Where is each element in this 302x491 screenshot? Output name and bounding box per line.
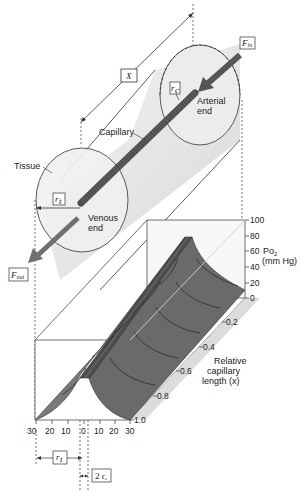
venous-end-label-2: end — [88, 223, 103, 233]
svg-text:20: 20 — [109, 426, 119, 436]
svg-text:40: 40 — [250, 262, 260, 272]
svg-text:10: 10 — [61, 426, 71, 436]
svg-text:100: 100 — [250, 215, 264, 225]
svg-text:0: 0 — [81, 426, 86, 436]
capillary-label: Capillary — [99, 127, 135, 137]
svg-text:0: 0 — [250, 293, 255, 303]
krogh-cylinder-diagram: X Fin Fout r c Arterial end Capillary Ti… — [0, 0, 302, 491]
svg-text:0.4: 0.4 — [203, 342, 215, 352]
svg-text:0.2: 0.2 — [226, 317, 238, 327]
po2-units: (mm Hg) — [262, 256, 297, 266]
arterial-end-label-2: end — [197, 106, 212, 116]
length-axis-title-1: Relative — [214, 356, 247, 366]
svg-text:c: c — [175, 85, 179, 95]
po2-axis: 100 80 60 40 20 0 Po2 (mm Hg) — [245, 215, 297, 303]
tissue-label: Tissue — [14, 161, 40, 171]
length-axis-title-2: capillary — [207, 366, 241, 376]
2rc-dimension: 2 rc — [80, 469, 111, 482]
svg-text:0.8: 0.8 — [157, 391, 169, 401]
svg-text:1.0: 1.0 — [134, 415, 146, 425]
length-axis-title-3: length (x) — [202, 376, 240, 386]
rt-bottom-dimension: r t — [37, 451, 82, 464]
radial-axis: 30 20 10 0 10 20 30 — [27, 420, 135, 436]
svg-text:20: 20 — [250, 278, 260, 288]
x-length-label: X — [125, 71, 132, 81]
svg-text:80: 80 — [250, 231, 260, 241]
svg-text:10: 10 — [94, 426, 104, 436]
venous-end-label-1: Venous — [88, 213, 119, 223]
arterial-end-label-1: Arterial — [197, 96, 226, 106]
svg-text:20: 20 — [45, 426, 55, 436]
svg-text:60: 60 — [250, 246, 260, 256]
arterial-end-circle — [160, 45, 240, 145]
svg-text:30: 30 — [125, 426, 135, 436]
svg-text:0.6: 0.6 — [180, 366, 192, 376]
svg-text:30: 30 — [27, 426, 37, 436]
